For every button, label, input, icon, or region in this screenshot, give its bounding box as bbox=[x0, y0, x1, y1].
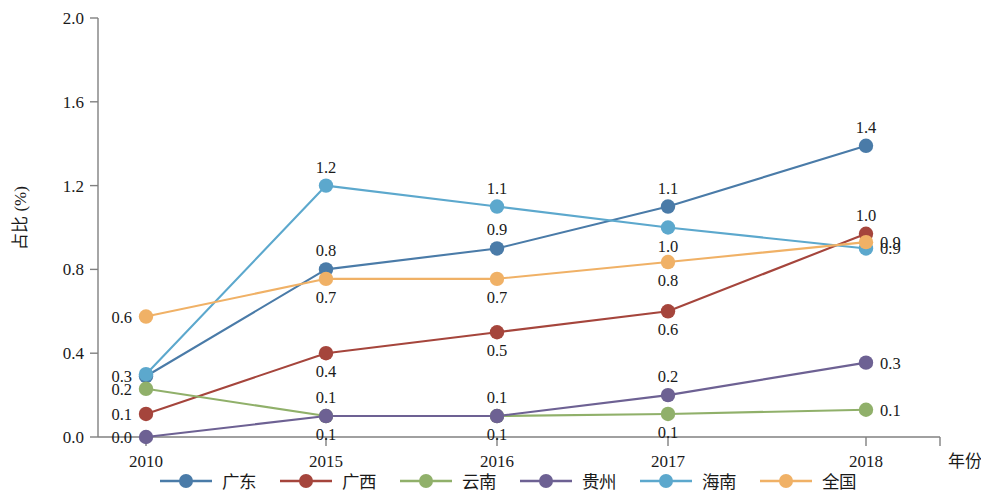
data-label-广东-2015: 0.8 bbox=[316, 241, 337, 260]
data-point-全国-2015 bbox=[319, 272, 333, 286]
x-tick-label: 2017 bbox=[651, 452, 686, 471]
data-label-海南-2017: 1.0 bbox=[658, 237, 679, 256]
y-tick-label: 2.0 bbox=[63, 9, 84, 28]
data-label-贵州-2018: 0.3 bbox=[880, 354, 901, 373]
data-label-贵州-2015: 0.1 bbox=[316, 425, 337, 444]
data-label-全国-2015: 0.7 bbox=[316, 288, 337, 307]
data-label-广西-2018: 1.0 bbox=[856, 206, 877, 225]
data-label-云南-2010: 0.2 bbox=[111, 380, 132, 399]
legend-marker-海南 bbox=[659, 474, 673, 488]
y-tick-label: 0.0 bbox=[63, 428, 84, 447]
data-label-全国-2010: 0.6 bbox=[111, 308, 132, 327]
data-point-全国-2010 bbox=[139, 309, 153, 323]
legend-label-海南: 海南 bbox=[702, 472, 736, 492]
legend-marker-贵州 bbox=[539, 474, 553, 488]
x-tick-label: 2010 bbox=[129, 452, 163, 471]
data-point-云南-2010 bbox=[139, 382, 153, 396]
data-label-广西-2016: 0.5 bbox=[487, 341, 508, 360]
data-label-全国-2017: 0.8 bbox=[658, 271, 679, 290]
data-point-贵州-2010 bbox=[139, 430, 153, 444]
legend-label-广西: 广西 bbox=[342, 472, 376, 492]
data-point-广西-2010 bbox=[139, 407, 153, 421]
data-labels: 0.30.80.91.11.40.10.40.50.61.00.20.10.10… bbox=[111, 118, 900, 447]
data-point-海南-2016 bbox=[490, 199, 504, 213]
data-point-广西-2015 bbox=[319, 346, 333, 360]
y-tick-label: 0.4 bbox=[63, 344, 85, 363]
data-point-海南-2017 bbox=[661, 220, 675, 234]
data-point-贵州-2018 bbox=[859, 355, 873, 369]
data-label-全国-2018: 0.9 bbox=[880, 233, 901, 252]
chart-legend: 广东广西云南贵州海南全国 bbox=[160, 472, 856, 492]
data-label-广东-2017: 1.1 bbox=[658, 179, 679, 198]
data-label-贵州-2016: 0.1 bbox=[487, 425, 508, 444]
data-label-海南-2015: 1.2 bbox=[316, 158, 337, 177]
line-chart: 0.00.40.81.21.62.020102015201620172018年份… bbox=[0, 0, 981, 499]
data-label-云南-2016: 0.1 bbox=[487, 388, 508, 407]
legend-marker-全国 bbox=[779, 474, 793, 488]
data-point-全国-2016 bbox=[490, 272, 504, 286]
legend-marker-云南 bbox=[419, 474, 433, 488]
data-point-海南-2010 bbox=[139, 367, 153, 381]
data-label-广西-2017: 0.6 bbox=[658, 320, 679, 339]
data-point-广西-2017 bbox=[661, 304, 675, 318]
x-tick-label: 2015 bbox=[309, 452, 343, 471]
data-point-广东-2018 bbox=[859, 139, 873, 153]
data-point-云南-2018 bbox=[859, 403, 873, 417]
y-tick-label: 1.2 bbox=[63, 177, 84, 196]
data-label-广东-2016: 0.9 bbox=[487, 220, 508, 239]
data-point-贵州-2015 bbox=[319, 409, 333, 423]
data-label-广西-2015: 0.4 bbox=[316, 362, 337, 381]
data-label-贵州-2010: 0.0 bbox=[111, 428, 132, 447]
chart-page: 0.00.40.81.21.62.020102015201620172018年份… bbox=[0, 0, 981, 499]
x-tick-label: 2018 bbox=[849, 452, 883, 471]
data-point-全国-2018 bbox=[859, 235, 873, 249]
legend-marker-广东 bbox=[179, 474, 193, 488]
data-point-广东-2016 bbox=[490, 241, 504, 255]
legend-label-贵州: 贵州 bbox=[582, 472, 616, 492]
data-point-全国-2017 bbox=[661, 255, 675, 269]
data-point-云南-2017 bbox=[661, 407, 675, 421]
legend-label-云南: 云南 bbox=[462, 472, 496, 492]
legend-marker-广西 bbox=[299, 474, 313, 488]
data-label-贵州-2017: 0.2 bbox=[658, 367, 679, 386]
data-label-云南-2017: 0.1 bbox=[658, 423, 679, 442]
legend-label-广东: 广东 bbox=[222, 472, 256, 492]
data-point-海南-2015 bbox=[319, 178, 333, 192]
data-point-贵州-2016 bbox=[490, 409, 504, 423]
x-tick-label: 2016 bbox=[480, 452, 514, 471]
data-label-海南-2016: 1.1 bbox=[487, 179, 508, 198]
data-label-广东-2018: 1.4 bbox=[856, 118, 877, 137]
data-point-贵州-2017 bbox=[661, 388, 675, 402]
x-axis-title: 年份 bbox=[948, 452, 981, 471]
data-point-广东-2017 bbox=[661, 199, 675, 213]
data-label-广西-2010: 0.1 bbox=[111, 405, 132, 424]
y-tick-label: 0.8 bbox=[63, 260, 84, 279]
y-tick-label: 1.6 bbox=[63, 93, 84, 112]
data-label-全国-2016: 0.7 bbox=[487, 288, 508, 307]
y-axis-title: 占比 (%) bbox=[11, 186, 30, 250]
data-label-云南-2018: 0.1 bbox=[880, 401, 901, 420]
data-label-云南-2015: 0.1 bbox=[316, 388, 337, 407]
data-point-广西-2016 bbox=[490, 325, 504, 339]
legend-label-全国: 全国 bbox=[822, 472, 856, 492]
